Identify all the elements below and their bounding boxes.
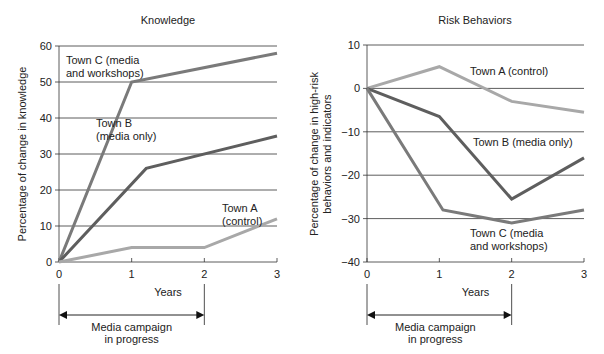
arrowhead-right-icon	[196, 311, 204, 319]
y-tick-label: 0	[46, 256, 52, 268]
x-axis-label: Years	[154, 286, 182, 298]
series-label: Town A (control)	[470, 65, 548, 77]
x-tick-label: 1	[436, 268, 442, 280]
y-tick-label: 60	[40, 40, 52, 52]
x-tick-label: 1	[129, 268, 135, 280]
x-tick-label: 3	[274, 268, 280, 280]
x-tick-label: 0	[56, 268, 62, 280]
y-tick-label: −20	[341, 169, 360, 181]
series-label: Town C (mediaand workshops)	[470, 227, 548, 252]
chart-title: Knowledge	[141, 14, 195, 26]
chart-title: Risk Behaviors	[438, 14, 512, 26]
y-tick-label: 10	[348, 39, 360, 51]
y-tick-label: 10	[40, 220, 52, 232]
arrowhead-right-icon	[504, 311, 512, 319]
knowledge-chart: Knowledge01020304050600123YearsPercentag…	[16, 14, 280, 345]
y-tick-label: 30	[40, 148, 52, 160]
y-tick-label: −30	[341, 213, 360, 225]
x-axis-label: Years	[462, 286, 490, 298]
y-tick-label: −10	[341, 126, 360, 138]
series-line	[59, 136, 277, 262]
campaign-annotation: Media campaignin progress	[395, 321, 476, 345]
series-label: Town C (mediaand workshops)	[66, 54, 144, 79]
series-label: Town B (media only)	[473, 136, 573, 148]
x-tick-label: 0	[364, 268, 370, 280]
y-tick-label: 20	[40, 184, 52, 196]
y-tick-label: 50	[40, 76, 52, 88]
y-axis-label: Percentage of change in high-riskbehavio…	[308, 72, 333, 236]
y-tick-label: 0	[354, 82, 360, 94]
series-label: Town B(media only)	[96, 117, 157, 142]
series-label: Town A(control)	[222, 202, 262, 227]
y-tick-label: 40	[40, 112, 52, 124]
campaign-annotation: Media campaignin progress	[91, 321, 172, 345]
x-tick-label: 2	[201, 268, 207, 280]
arrowhead-left-icon	[59, 311, 67, 319]
y-tick-label: −40	[341, 256, 360, 268]
x-tick-label: 2	[509, 268, 515, 280]
risk-behaviors-chart: Risk Behaviors−40−30−20−100100123YearsPe…	[308, 14, 587, 345]
charts-figure: Knowledge01020304050600123YearsPercentag…	[0, 0, 604, 354]
y-axis-label: Percentage of change in knowledge	[16, 67, 28, 242]
x-tick-label: 3	[581, 268, 587, 280]
arrowhead-left-icon	[367, 311, 375, 319]
